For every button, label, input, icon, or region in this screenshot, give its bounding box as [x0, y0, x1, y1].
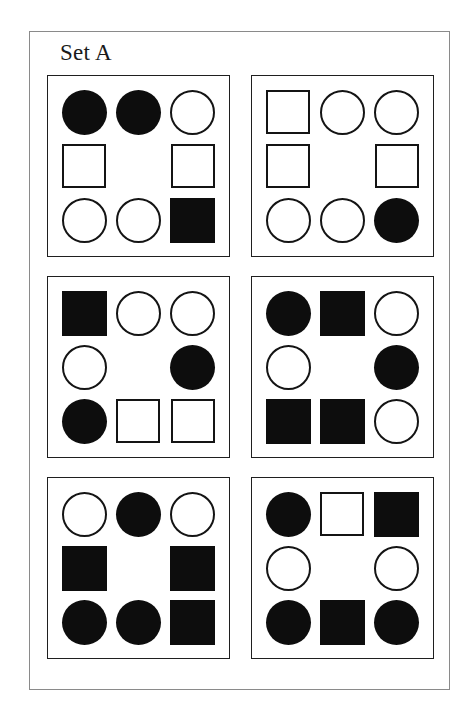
panel-2-cell-r2c3	[370, 139, 424, 193]
panel-5-cell-r1c2	[111, 487, 165, 541]
filled-square-icon	[170, 198, 215, 243]
filled-circle-icon	[116, 90, 161, 135]
filled-circle-icon	[62, 399, 107, 444]
figure-root: Set A	[0, 0, 473, 721]
panel-3-cell-r3c1	[57, 394, 111, 448]
panel-5-cell-r2c3	[166, 541, 220, 595]
filled-circle-icon	[62, 600, 107, 645]
panel-1-cell-r2c2	[111, 139, 165, 193]
panel-4-cell-r1c3	[370, 286, 424, 340]
panel-1-cell-r1c1	[57, 85, 111, 139]
panel-4	[251, 276, 434, 458]
open-circle-icon	[320, 90, 365, 135]
panel-3-cell-grid	[57, 286, 220, 448]
panel-3-cell-r1c1	[57, 286, 111, 340]
panel-6-cell-r3c3	[370, 595, 424, 649]
filled-circle-icon	[116, 492, 161, 537]
filled-circle-icon	[170, 345, 215, 390]
filled-circle-icon	[374, 198, 419, 243]
filled-square-icon	[374, 492, 419, 537]
panel-4-cell-r1c2	[315, 286, 369, 340]
filled-circle-icon	[374, 345, 419, 390]
panel-3-cell-r1c2	[111, 286, 165, 340]
filled-circle-icon	[266, 600, 311, 645]
panel-4-cell-r1c1	[261, 286, 315, 340]
filled-square-icon	[62, 546, 107, 591]
panel-3-cell-r2c1	[57, 340, 111, 394]
panel-1-cell-r3c3	[166, 193, 220, 247]
panel-6-cell-grid	[261, 487, 424, 649]
open-circle-icon	[320, 198, 365, 243]
panel-2-cell-r2c1	[261, 139, 315, 193]
open-circle-icon	[116, 198, 161, 243]
panel-2-cell-r1c3	[370, 85, 424, 139]
panel-1-cell-r2c1	[57, 139, 111, 193]
open-square-icon	[266, 90, 310, 134]
panel-2-cell-r3c2	[315, 193, 369, 247]
open-circle-icon	[374, 90, 419, 135]
panel-4-cell-r2c1	[261, 340, 315, 394]
panel-1	[47, 75, 230, 257]
open-circle-icon	[62, 345, 107, 390]
panel-6-cell-r3c2	[315, 595, 369, 649]
open-circle-icon	[266, 546, 311, 591]
panel-4-cell-r2c2	[315, 340, 369, 394]
panel-6-cell-r2c2	[315, 541, 369, 595]
panel-1-cell-grid	[57, 85, 220, 247]
open-square-icon	[375, 144, 419, 188]
filled-square-icon	[320, 399, 365, 444]
filled-square-icon	[266, 399, 311, 444]
panel-1-cell-r3c2	[111, 193, 165, 247]
filled-square-icon	[170, 600, 215, 645]
panel-2	[251, 75, 434, 257]
open-circle-icon	[266, 198, 311, 243]
panel-5-cell-r1c3	[166, 487, 220, 541]
panel-5	[47, 477, 230, 659]
open-square-icon	[171, 144, 215, 188]
panel-1-cell-r3c1	[57, 193, 111, 247]
open-circle-icon	[116, 291, 161, 336]
open-circle-icon	[266, 345, 311, 390]
panel-6	[251, 477, 434, 659]
open-square-icon	[62, 144, 106, 188]
panel-4-cell-r3c1	[261, 394, 315, 448]
panel-6-cell-r1c1	[261, 487, 315, 541]
filled-square-icon	[62, 291, 107, 336]
panel-5-cell-r2c1	[57, 541, 111, 595]
panel-3-cell-r2c3	[166, 340, 220, 394]
panel-5-cell-grid	[57, 487, 220, 649]
panel-2-cell-r2c2	[315, 139, 369, 193]
filled-circle-icon	[116, 600, 161, 645]
panel-2-cell-r1c2	[315, 85, 369, 139]
open-circle-icon	[374, 399, 419, 444]
panel-1-cell-r1c2	[111, 85, 165, 139]
panel-6-cell-r2c3	[370, 541, 424, 595]
open-circle-icon	[170, 492, 215, 537]
panel-5-cell-r3c1	[57, 595, 111, 649]
panel-4-cell-r2c3	[370, 340, 424, 394]
panel-3-cell-r2c2	[111, 340, 165, 394]
panel-1-cell-r1c3	[166, 85, 220, 139]
panel-5-cell-r1c1	[57, 487, 111, 541]
panel-2-cell-grid	[261, 85, 424, 247]
panel-3-cell-r3c3	[166, 394, 220, 448]
panel-6-cell-r1c2	[315, 487, 369, 541]
panel-3-cell-r3c2	[111, 394, 165, 448]
filled-square-icon	[320, 600, 365, 645]
open-square-icon	[266, 144, 310, 188]
panel-6-cell-r3c1	[261, 595, 315, 649]
panel-4-cell-r3c2	[315, 394, 369, 448]
filled-circle-icon	[374, 600, 419, 645]
open-circle-icon	[170, 90, 215, 135]
open-circle-icon	[170, 291, 215, 336]
filled-circle-icon	[266, 492, 311, 537]
open-square-icon	[171, 399, 215, 443]
filled-square-icon	[320, 291, 365, 336]
panel-6-cell-r2c1	[261, 541, 315, 595]
panel-2-cell-r1c1	[261, 85, 315, 139]
filled-circle-icon	[266, 291, 311, 336]
open-circle-icon	[62, 492, 107, 537]
panel-2-cell-r3c1	[261, 193, 315, 247]
panel-1-cell-r2c3	[166, 139, 220, 193]
filled-square-icon	[170, 546, 215, 591]
